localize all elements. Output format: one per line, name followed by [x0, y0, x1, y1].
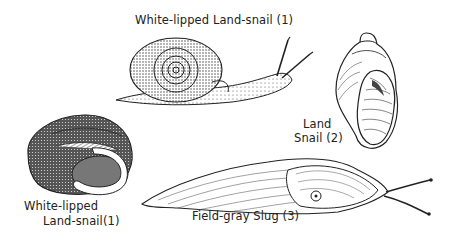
label-land-snail-line2: Snail (2) [294, 131, 343, 145]
label-white-lipped-land-snail-top: White-lipped Land-snail (1) [135, 13, 293, 27]
snail-illustration-plate: White-lipped Land-snail (1) [0, 0, 454, 243]
label-white-lipped-line2: Land-snail(1) [43, 214, 120, 228]
snail-shell-aperture-icon [22, 112, 137, 197]
label-land-snail-line1: Land [303, 117, 331, 131]
label-white-lipped-line1: White-lipped [24, 199, 98, 213]
snail-side-view-icon [112, 34, 322, 112]
label-field-gray-slug: Field-gray Slug (3) [192, 209, 299, 223]
